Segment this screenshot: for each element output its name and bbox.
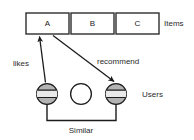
item-box-a[interactable]: A	[26, 13, 69, 34]
user-node-left[interactable]	[35, 84, 59, 105]
similar-bracket: Similar	[47, 105, 116, 136]
items-row: A B C Items	[26, 13, 184, 34]
likes-arrow-line	[40, 37, 46, 83]
item-box-b-label: B	[90, 19, 95, 28]
edge-recommend: recommend	[53, 36, 139, 82]
user-left-bands	[35, 90, 59, 97]
user-right-bands	[104, 90, 128, 97]
edge-likes: likes	[13, 37, 46, 83]
item-box-b[interactable]: B	[71, 13, 114, 34]
similar-bracket-path	[47, 105, 116, 121]
diagram-canvas: A B C Items likes recomme	[0, 0, 194, 140]
items-row-label: Items	[164, 19, 184, 28]
user-middle-disc	[71, 84, 92, 105]
users-row: Users	[35, 84, 163, 105]
users-row-label: Users	[142, 90, 163, 99]
item-box-c-label: C	[135, 19, 141, 28]
likes-edge-label: likes	[13, 59, 29, 68]
item-box-c[interactable]: C	[116, 13, 159, 34]
recommend-edge-label: recommend	[97, 57, 139, 66]
user-node-middle[interactable]	[71, 84, 92, 105]
similar-bracket-label: Similar	[69, 126, 94, 135]
user-node-right[interactable]	[104, 84, 128, 105]
recommendation-diagram: A B C Items likes recomme	[0, 0, 194, 140]
item-box-a-label: A	[45, 19, 51, 28]
